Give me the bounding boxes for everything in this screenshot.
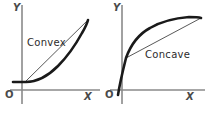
origin-label: O — [105, 90, 114, 100]
panel-convex: Y X O Convex — [0, 0, 105, 116]
y-axis-label: Y — [13, 3, 20, 13]
y-axis-label: Y — [113, 3, 120, 13]
convex-curve — [13, 20, 88, 82]
convex-chord-line — [26, 20, 88, 81]
panel-concave: Y X O Concave — [104, 0, 209, 116]
origin-label: O — [5, 90, 14, 100]
x-axis-label: X — [186, 92, 194, 102]
convexity-diagram: Y X O Convex Y X O Concave — [0, 0, 209, 116]
concave-curve-label: Concave — [145, 50, 190, 60]
x-axis-label: X — [84, 92, 92, 102]
convex-curve-label: Convex — [27, 38, 66, 48]
